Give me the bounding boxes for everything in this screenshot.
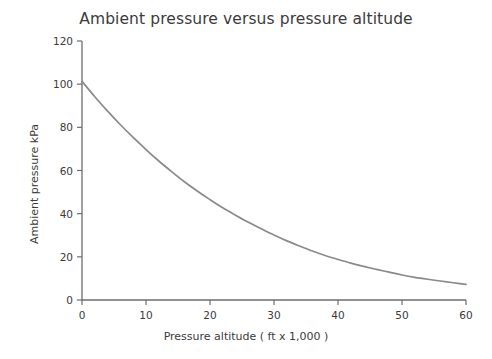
y-tick-label: 100	[43, 78, 73, 90]
x-tick-label: 20	[195, 309, 225, 321]
x-tick-label: 60	[451, 309, 481, 321]
y-tick-label: 80	[43, 121, 73, 133]
plot-area	[0, 0, 492, 359]
y-tick-label: 60	[43, 165, 73, 177]
axes	[82, 41, 466, 300]
x-tick-label: 10	[131, 309, 161, 321]
x-tick-label: 0	[67, 309, 97, 321]
x-tick-label: 30	[259, 309, 289, 321]
y-tick-label: 0	[43, 294, 73, 306]
x-tick-label: 40	[323, 309, 353, 321]
chart-figure: Ambient pressure versus pressure altitud…	[0, 0, 492, 359]
y-tick-label: 120	[43, 35, 73, 47]
pressure-curve	[82, 81, 466, 284]
y-tick-label: 20	[43, 251, 73, 263]
axis-ticks	[77, 41, 466, 305]
x-tick-label: 50	[387, 309, 417, 321]
y-tick-label: 40	[43, 208, 73, 220]
